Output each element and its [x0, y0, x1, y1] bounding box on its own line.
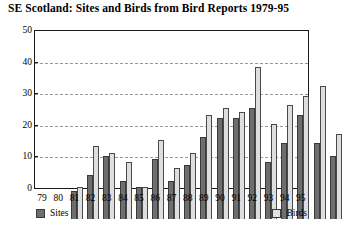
- x-tick-label: 91: [228, 192, 244, 206]
- legend-label-sites: Sites: [50, 208, 68, 218]
- legend-entry-birds: Birds: [272, 208, 307, 218]
- legend-label-birds: Birds: [286, 208, 307, 218]
- x-tick-label: 80: [50, 192, 66, 206]
- bar-group: [328, 61, 344, 219]
- y-tick-label: 0: [8, 183, 32, 193]
- x-tick-label: 94: [277, 192, 293, 206]
- x-tick-label: 85: [131, 192, 147, 206]
- y-tick-label: 50: [8, 25, 32, 35]
- y-tick-label: 30: [8, 88, 32, 98]
- x-tick-label: 95: [293, 192, 309, 206]
- y-tick-label: 10: [8, 151, 32, 161]
- page-title: SE Scotland: Sites and Birds from Bird R…: [8, 2, 318, 14]
- y-tick-label: 40: [8, 57, 32, 67]
- bar-group: [312, 61, 328, 219]
- y-tick-mark: [34, 156, 38, 157]
- y-tick-mark: [34, 30, 38, 31]
- x-axis: 7980818283848586878889909192939495: [34, 192, 309, 206]
- x-tick-label: 82: [83, 192, 99, 206]
- x-tick-label: 90: [212, 192, 228, 206]
- x-tick-label: 87: [163, 192, 179, 206]
- x-tick-label: 93: [260, 192, 276, 206]
- y-tick-mark: [34, 125, 38, 126]
- x-tick-label: 84: [115, 192, 131, 206]
- bar-birds-94: [320, 86, 326, 219]
- y-axis: 01020304050: [8, 24, 32, 195]
- x-tick-label: 89: [196, 192, 212, 206]
- plot-area: [34, 30, 309, 189]
- x-tick-label: 79: [34, 192, 50, 206]
- legend-swatch-birds-icon: [272, 209, 281, 218]
- legend-entry-sites: Sites: [36, 208, 68, 218]
- y-tick-mark: [34, 188, 38, 189]
- x-tick-label: 83: [99, 192, 115, 206]
- x-tick-label: 92: [244, 192, 260, 206]
- bar-birds-95: [336, 134, 342, 219]
- legend: Sites Birds: [34, 208, 309, 224]
- legend-swatch-sites-icon: [36, 209, 45, 218]
- y-tick-label: 20: [8, 120, 32, 130]
- y-tick-mark: [34, 62, 38, 63]
- x-tick-label: 86: [147, 192, 163, 206]
- x-tick-label: 81: [66, 192, 82, 206]
- x-tick-label: 88: [180, 192, 196, 206]
- y-tick-mark: [34, 93, 38, 94]
